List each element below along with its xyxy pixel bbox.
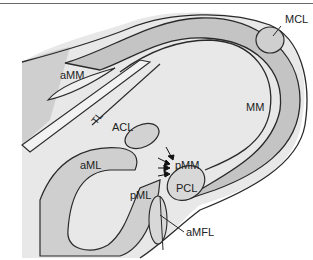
label-pcl: PCL bbox=[176, 183, 197, 194]
label-mcl: MCL bbox=[285, 14, 308, 25]
diagram-artwork bbox=[0, 0, 313, 260]
label-amm: aMM bbox=[60, 70, 84, 81]
label-mm: MM bbox=[246, 102, 264, 113]
mcl-oval bbox=[256, 27, 284, 53]
amfl-ellipse bbox=[149, 196, 167, 244]
label-amfl: aMFL bbox=[186, 227, 214, 238]
label-aml: aML bbox=[80, 160, 101, 171]
label-pml: pML bbox=[130, 190, 151, 201]
knee-meniscus-diagram: MCL aMM MM TL ACL aML pMM pML PCL aMFL bbox=[0, 0, 313, 260]
label-acl: ACL bbox=[112, 122, 133, 133]
label-pmm: pMM bbox=[175, 160, 199, 171]
